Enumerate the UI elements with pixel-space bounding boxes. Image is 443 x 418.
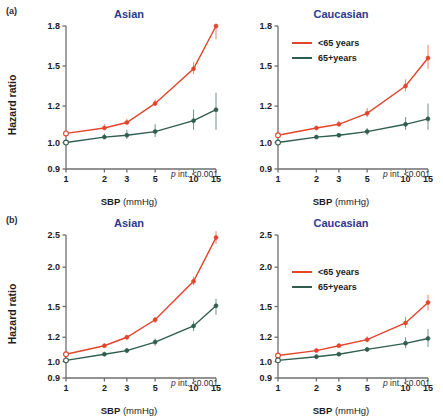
chart-panel-a-asian: Asian 0.91.01.21.51.812351015 p int. <0.… [36, 0, 222, 209]
y-axis-label-wrap-a: Hazard ratio [14, 0, 28, 209]
x-tick-label: 5 [153, 174, 158, 184]
legend-item-young[interactable]: <65 years [292, 267, 359, 277]
y-axis-label-wrap-b: Hazard ratio [14, 209, 28, 418]
chart-panel-b-asian: Asian 0.91.01.21.52.02.512351015 p int. … [36, 209, 222, 418]
data-point-marker [314, 349, 318, 353]
legend-label-young: <65 years [318, 38, 359, 48]
x-tick-label: 2 [102, 383, 107, 393]
data-point-marker [404, 341, 408, 345]
x-tick-label: 3 [336, 383, 341, 393]
series-old [276, 329, 430, 363]
x-tick-label: 1 [63, 383, 68, 393]
data-point-marker [337, 122, 341, 126]
y-tick-label: 1.2 [259, 332, 272, 342]
data-point-marker [125, 120, 129, 124]
y-tick-label: 1.0 [47, 138, 60, 148]
y-tick-label: 0.9 [259, 373, 272, 383]
y-tick-label: 1.5 [259, 61, 272, 71]
y-axis-label-b: Hazard ratio [6, 283, 18, 344]
y-tick-label: 1.0 [259, 138, 272, 148]
legend-swatch-old [292, 286, 312, 288]
y-tick-label: 1.8 [47, 21, 60, 31]
reference-marker [276, 353, 281, 358]
hazard-ratio-figure: (a) Hazard ratio Asian 0.91.01.21.51.812… [0, 0, 443, 418]
x-tick-label: 3 [124, 174, 129, 184]
x-axis-title-main: SBP [313, 405, 333, 416]
data-point-marker [365, 111, 369, 115]
x-tick-label: 5 [365, 383, 370, 393]
legend-item-old[interactable]: 65+years [292, 282, 359, 292]
p-rest: int. <0.001 [388, 378, 430, 388]
data-point-marker [125, 133, 129, 137]
data-point-marker [365, 130, 369, 134]
data-point-marker [102, 126, 106, 130]
p-rest: int. <0.001 [176, 169, 218, 179]
y-tick-label: 2.0 [47, 262, 60, 272]
legend-item-old[interactable]: 65+years [292, 53, 359, 63]
data-point-marker [426, 336, 430, 340]
data-point-marker [314, 126, 318, 130]
y-tick-label: 1.2 [259, 101, 272, 111]
x-axis-title-b-caucasian: SBP (mmHg) [248, 405, 434, 416]
y-tick-label: 1.2 [47, 101, 60, 111]
data-point-marker [125, 349, 129, 353]
x-tick-label: 3 [336, 174, 341, 184]
data-point-marker [214, 236, 218, 240]
y-tick-label: 1.5 [259, 302, 272, 312]
data-point-marker [192, 279, 196, 283]
x-tick-label: 3 [124, 383, 129, 393]
x-axis-title-main: SBP [313, 196, 333, 207]
data-point-marker [214, 24, 218, 28]
legend-label-old: 65+years [318, 53, 357, 63]
data-point-marker [314, 355, 318, 359]
series-old [64, 299, 218, 363]
data-point-marker [102, 344, 106, 348]
legend-item-young[interactable]: <65 years [292, 38, 359, 48]
data-point-marker [426, 301, 430, 305]
reference-marker [276, 140, 281, 145]
y-tick-label: 2.5 [259, 230, 272, 240]
y-axis-label-a: Hazard ratio [6, 74, 18, 135]
x-tick-label: 5 [365, 174, 370, 184]
x-tick-label: 1 [63, 174, 68, 184]
data-point-marker [404, 84, 408, 88]
series-young [276, 295, 430, 358]
data-point-marker [192, 67, 196, 71]
x-axis-title-main: SBP [101, 405, 121, 416]
y-tick-label: 2.0 [259, 262, 272, 272]
series-line [66, 238, 216, 355]
p-rest: int. <0.001 [176, 378, 218, 388]
x-tick-label: 1 [275, 174, 280, 184]
y-tick-label: 2.5 [47, 230, 60, 240]
y-tick-label: 0.9 [47, 373, 60, 383]
data-point-marker [102, 135, 106, 139]
p-value-annotation-b-caucasian: p int. <0.001 [383, 378, 430, 388]
legend-label-young: <65 years [318, 267, 359, 277]
p-value-annotation-b-asian: p int. <0.001 [171, 378, 218, 388]
legend-swatch-young [292, 42, 312, 44]
data-point-marker [337, 352, 341, 356]
chart-panel-b-caucasian: Caucasian 0.91.01.21.52.02.512351015 <65… [248, 209, 434, 418]
x-tick-label: 2 [314, 174, 319, 184]
data-point-marker [426, 56, 430, 60]
data-point-marker [125, 335, 129, 339]
legend-swatch-young [292, 271, 312, 273]
data-point-marker [153, 101, 157, 105]
reference-marker [64, 140, 69, 145]
y-tick-label: 1.2 [47, 332, 60, 342]
series-line [66, 306, 216, 361]
x-axis-title-b-asian: SBP (mmHg) [36, 405, 222, 416]
x-axis-title-a-caucasian: SBP (mmHg) [248, 196, 434, 207]
x-axis-title-unit: (mmHg) [335, 405, 369, 416]
x-tick-label: 2 [102, 174, 107, 184]
panel-row-a: (a) Hazard ratio Asian 0.91.01.21.51.812… [0, 0, 443, 209]
x-tick-label: 2 [314, 383, 319, 393]
data-point-marker [192, 119, 196, 123]
series-old [276, 103, 430, 145]
data-point-marker [365, 347, 369, 351]
data-point-marker [192, 324, 196, 328]
data-point-marker [214, 304, 218, 308]
x-axis-title-main: SBP [101, 196, 121, 207]
y-tick-label: 1.0 [47, 357, 60, 367]
x-axis-title-unit: (mmHg) [335, 196, 369, 207]
